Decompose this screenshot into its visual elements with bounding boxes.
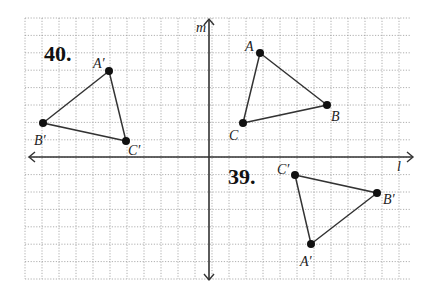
vertex-point (373, 189, 381, 197)
problem-number: 40. (44, 41, 72, 66)
vertex-point (307, 240, 315, 248)
vertex-point (323, 101, 331, 109)
axis-label-m: m (196, 20, 206, 35)
axis-label-l: l (397, 159, 401, 174)
vertex-point (291, 171, 299, 179)
vertex-label: B (331, 109, 340, 124)
grid-lines (25, 18, 410, 279)
vertex-label: A′ (299, 254, 313, 269)
vertex-label: A (244, 39, 254, 54)
vertex-label: C (229, 128, 239, 143)
vertex-label: C′ (128, 143, 141, 158)
vertex-label: B′ (34, 133, 47, 148)
vertex-point (105, 67, 113, 75)
vertex-point (256, 49, 264, 57)
vertex-label: B′ (383, 192, 396, 207)
triangles (39, 49, 381, 248)
problem-number: 39. (228, 164, 256, 189)
axes (29, 19, 413, 280)
coordinate-grid-figure: ml39.ABCA′B′C′40.A′B′C′ (0, 0, 431, 295)
vertex-label: C′ (277, 162, 290, 177)
vertex-label: A′ (92, 56, 106, 71)
vertex-point (239, 119, 247, 127)
triangle-A'B'C'-40 (43, 71, 126, 141)
vertex-point (39, 119, 47, 127)
labels: ml39.ABCA′B′C′40.A′B′C′ (34, 20, 401, 269)
